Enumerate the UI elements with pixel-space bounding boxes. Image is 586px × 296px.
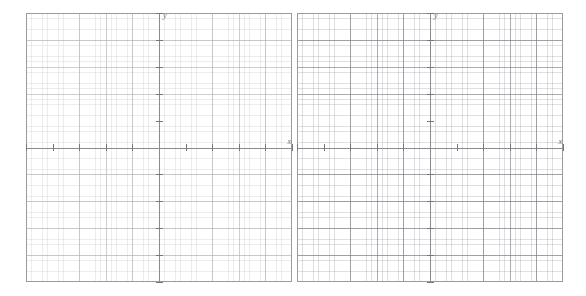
x-axis-tick (132, 144, 133, 151)
graph-panel-left[interactable]: x y (26, 13, 292, 282)
y-axis-tick (156, 255, 163, 256)
y-axis-tick (156, 228, 163, 229)
y-axis-tick (156, 13, 163, 14)
x-axis-tick (53, 144, 54, 151)
x-axis-label-right: x (558, 138, 562, 146)
x-axis-tick (106, 144, 107, 151)
y-axis-tick (156, 67, 163, 68)
y-axis-tick (427, 201, 434, 202)
y-axis-tick (427, 255, 434, 256)
x-axis-tick (297, 144, 298, 151)
x-axis-label-left: x (287, 138, 291, 146)
y-axis-tick (427, 174, 434, 175)
y-axis-right: y (430, 13, 431, 282)
x-axis-tick (510, 144, 511, 151)
y-axis-tick (427, 13, 434, 14)
y-axis-label-left: y (163, 12, 167, 20)
x-axis-tick (265, 144, 266, 151)
y-axis-label-right: y (434, 12, 438, 20)
x-axis-tick (79, 144, 80, 151)
x-axis-tick (403, 144, 404, 151)
y-axis-tick (156, 174, 163, 175)
x-axis-tick (186, 144, 187, 151)
y-axis-tick (427, 94, 434, 95)
y-axis-tick (427, 228, 434, 229)
x-axis-tick (350, 144, 351, 151)
x-axis-tick (292, 144, 293, 151)
y-axis-tick (427, 121, 434, 122)
x-axis-tick (457, 144, 458, 151)
x-axis-tick (563, 144, 564, 151)
x-axis-tick (536, 144, 537, 151)
y-axis-tick (427, 67, 434, 68)
y-axis-tick (156, 121, 163, 122)
x-axis-tick (26, 144, 27, 151)
y-axis-tick (156, 40, 163, 41)
x-axis-tick (483, 144, 484, 151)
y-axis-left: y (159, 13, 160, 282)
x-axis-tick (212, 144, 213, 151)
graph-panel-right[interactable]: x y (297, 13, 563, 282)
y-axis-tick (156, 201, 163, 202)
y-axis-tick (427, 40, 434, 41)
y-axis-tick (156, 282, 163, 283)
y-axis-tick (156, 94, 163, 95)
x-axis-tick (239, 144, 240, 151)
x-axis-tick (377, 144, 378, 151)
worksheet-canvas: x y x y (0, 0, 586, 296)
y-axis-tick (427, 282, 434, 283)
x-axis-tick (324, 144, 325, 151)
